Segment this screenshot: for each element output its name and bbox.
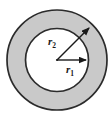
annulus-diagram-canvas: r2 r1	[0, 0, 112, 121]
center-point	[56, 59, 58, 61]
outer-radius-label-subscript: 2	[52, 41, 56, 50]
annulus-figure: r2 r1	[0, 0, 112, 121]
inner-radius-label-subscript: 1	[70, 69, 74, 78]
annulus-band	[0, 0, 112, 121]
